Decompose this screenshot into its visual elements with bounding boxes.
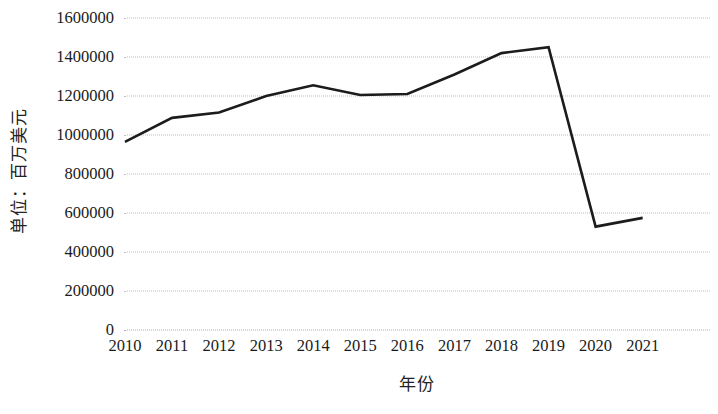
x-axis-tick-label: 2020 [579, 336, 612, 356]
x-axis-tick-label: 2016 [391, 336, 424, 356]
x-axis-tick-label: 2012 [203, 336, 236, 356]
y-axis-title: 单位：百万美元 [0, 0, 34, 340]
x-axis-tick-label: 2013 [250, 336, 283, 356]
x-axis-tick-label: 2010 [108, 336, 141, 356]
plot-area [124, 18, 710, 330]
y-axis-title-label: 单位：百万美元 [5, 107, 30, 233]
x-axis-tick-label: 2017 [438, 336, 471, 356]
y-axis-tick-label: 1000000 [56, 125, 114, 145]
y-axis-tick-label: 1400000 [56, 47, 114, 67]
y-axis-tick-label: 800000 [65, 164, 115, 184]
x-axis-tick-label: 2021 [626, 336, 659, 356]
x-axis-tick-label: 2019 [532, 336, 565, 356]
line-chart: 单位：百万美元 16000001400000120000010000008000… [0, 0, 718, 414]
y-axis-tick-label: 1200000 [56, 86, 114, 106]
x-axis-title: 年份 [124, 370, 710, 395]
y-axis-tick-label: 1600000 [56, 8, 114, 28]
series-line [125, 47, 643, 226]
y-axis-tick-labels: 1600000140000012000001000000800000600000… [34, 0, 118, 340]
y-axis-tick-label: 400000 [65, 242, 115, 262]
y-axis-tick-label: 600000 [65, 203, 115, 223]
series-line-svg [124, 18, 710, 330]
x-axis-tick-label: 2015 [344, 336, 377, 356]
x-axis-tick-label: 2011 [156, 336, 188, 356]
x-axis-tick-label: 2018 [485, 336, 518, 356]
y-axis-tick-label: 200000 [65, 281, 115, 301]
x-axis-tick-label: 2014 [297, 336, 330, 356]
x-axis-tick-labels: 2010201120122013201420152016201720182019… [124, 336, 710, 364]
